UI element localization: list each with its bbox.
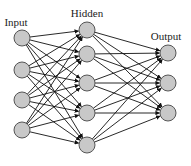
hidden-node-2: [79, 46, 95, 62]
input-layer-label: Input: [4, 16, 27, 28]
output-node-1: [160, 45, 176, 61]
network-graph: Input Hidden Output: [0, 0, 191, 166]
input-node-3: [14, 92, 30, 108]
hidden-node-3: [79, 75, 95, 91]
hidden-node-1: [79, 22, 95, 38]
hidden-layer-label: Hidden: [71, 7, 104, 19]
output-node-2: [160, 75, 176, 91]
neural-network-diagram: Input Hidden Output: [0, 0, 191, 166]
connection-arrow: [27, 61, 81, 124]
input-node-4: [14, 122, 30, 138]
connection-arrow: [94, 116, 160, 142]
connection-arrow: [27, 36, 81, 94]
connection-arrow: [30, 31, 79, 37]
connection-arrow: [30, 115, 79, 128]
connection-arrow: [95, 53, 160, 54]
input-node-2: [14, 62, 30, 78]
output-node-3: [160, 105, 176, 121]
hidden-node-5: [79, 137, 95, 153]
connection-arrow: [27, 44, 81, 107]
hidden-node-4: [79, 105, 95, 121]
output-layer-label: Output: [151, 30, 182, 42]
input-node-1: [14, 30, 30, 46]
connection-arrow: [29, 88, 81, 125]
connection-arrow: [30, 132, 79, 143]
connection-arrow: [29, 59, 81, 96]
connection-arrow: [93, 88, 161, 140]
